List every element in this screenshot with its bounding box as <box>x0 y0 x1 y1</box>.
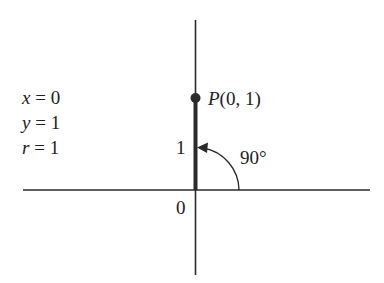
tick-label-one: 1 <box>176 138 186 157</box>
equation-value: 1 <box>51 112 61 133</box>
equation-op: = <box>29 137 49 158</box>
equation-op: = <box>30 87 50 108</box>
point-p <box>191 93 201 103</box>
equation-x: x = 0 <box>22 88 60 107</box>
equation-op: = <box>30 112 50 133</box>
angle-label: 90° <box>240 148 267 167</box>
equation-value: 1 <box>50 137 60 158</box>
equation-y: y = 1 <box>22 113 60 132</box>
point-coords: (0, 1) <box>220 88 261 109</box>
origin-label: 0 <box>176 198 186 217</box>
arrowhead-icon <box>197 143 208 154</box>
point-name: P <box>208 88 220 109</box>
angle-arc <box>203 148 239 190</box>
equation-r: r = 1 <box>22 138 59 157</box>
equation-value: 0 <box>51 87 61 108</box>
point-label: P(0, 1) <box>208 89 261 108</box>
